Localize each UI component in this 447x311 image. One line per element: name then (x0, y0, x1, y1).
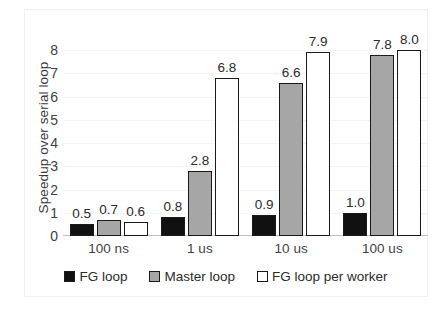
bar-value-label: 1.0 (346, 195, 365, 210)
y-axis-tick-label: 3 (38, 158, 58, 174)
bar-value-label: 7.9 (309, 34, 328, 49)
y-axis-tick-label: 4 (38, 135, 58, 151)
bar-group: 0.96.67.9 (246, 50, 337, 236)
x-axis-tick-label: 10 us (246, 241, 337, 256)
x-axis-tick-label: 100 us (337, 241, 428, 256)
bars: 0.50.70.6 (63, 50, 154, 236)
bar[interactable] (124, 222, 148, 236)
legend-swatch-icon (257, 271, 268, 282)
chart-legend: FG loopMaster loopFG loop per worker (24, 269, 428, 284)
bar-value-label: 7.8 (373, 37, 392, 52)
x-axis-tick-label: 100 ns (63, 241, 154, 256)
y-axis-tick-label: 7 (38, 65, 58, 81)
bar-item[interactable]: 0.5 (70, 50, 94, 236)
y-axis-tick-label: 8 (38, 42, 58, 58)
bar[interactable] (343, 213, 367, 236)
legend-swatch-icon (64, 271, 75, 282)
plot-area: 0.50.70.60.82.86.80.96.67.91.07.88.0 (63, 50, 428, 236)
bar[interactable] (188, 171, 212, 236)
bar-item[interactable]: 0.8 (161, 50, 185, 236)
bar-value-label: 0.7 (99, 202, 118, 217)
bar[interactable] (370, 55, 394, 236)
bar-item[interactable]: 1.0 (343, 50, 367, 236)
bar[interactable] (161, 217, 185, 236)
bar-value-label: 6.8 (217, 60, 236, 75)
legend-item[interactable]: FG loop per worker (257, 269, 388, 284)
bar-item[interactable]: 0.6 (124, 50, 148, 236)
bar[interactable] (306, 52, 330, 236)
y-axis-tick-label: 1 (38, 205, 58, 221)
bar-chart: Speedup over serial loop 012345678 0.50.… (0, 0, 447, 311)
bar-value-label: 0.6 (126, 204, 145, 219)
legend-item[interactable]: Master loop (149, 269, 235, 284)
legend-label: FG loop (79, 269, 127, 284)
legend-swatch-icon (149, 271, 160, 282)
bar-value-label: 0.8 (163, 199, 182, 214)
gridline (63, 236, 428, 237)
legend-label: FG loop per worker (272, 269, 388, 284)
bar-group: 0.50.70.6 (63, 50, 154, 236)
bar-group: 0.82.86.8 (154, 50, 245, 236)
bar-value-label: 6.6 (282, 65, 301, 80)
bars: 0.96.67.9 (246, 50, 337, 236)
bar-item[interactable]: 2.8 (188, 50, 212, 236)
bar-item[interactable]: 8.0 (397, 50, 421, 236)
y-axis-tick-labels: 012345678 (38, 50, 58, 236)
bar[interactable] (279, 83, 303, 236)
bar[interactable] (97, 220, 121, 236)
bar-group: 1.07.88.0 (337, 50, 428, 236)
bar-item[interactable]: 6.6 (279, 50, 303, 236)
bar-item[interactable]: 7.9 (306, 50, 330, 236)
bar-item[interactable]: 7.8 (370, 50, 394, 236)
x-axis-tick-label: 1 us (154, 241, 245, 256)
bar-value-label: 2.8 (190, 153, 209, 168)
legend-item[interactable]: FG loop (64, 269, 127, 284)
bars: 0.82.86.8 (154, 50, 245, 236)
x-axis-tick-labels: 100 ns1 us10 us100 us (63, 241, 428, 256)
bar-groups: 0.50.70.60.82.86.80.96.67.91.07.88.0 (63, 50, 428, 236)
y-axis-tick-label: 5 (38, 112, 58, 128)
bar-item[interactable]: 6.8 (215, 50, 239, 236)
bar[interactable] (252, 215, 276, 236)
y-axis-tick-label: 6 (38, 89, 58, 105)
bar[interactable] (70, 224, 94, 236)
bar-item[interactable]: 0.9 (252, 50, 276, 236)
bar[interactable] (215, 78, 239, 236)
y-axis-tick-label: 0 (38, 228, 58, 244)
bar-value-label: 8.0 (400, 32, 419, 47)
bar-value-label: 0.9 (255, 197, 274, 212)
legend-label: Master loop (164, 269, 235, 284)
y-axis-tick-label: 2 (38, 182, 58, 198)
bar-value-label: 0.5 (72, 206, 91, 221)
bars: 1.07.88.0 (337, 50, 428, 236)
bar-item[interactable]: 0.7 (97, 50, 121, 236)
bar[interactable] (397, 50, 421, 236)
